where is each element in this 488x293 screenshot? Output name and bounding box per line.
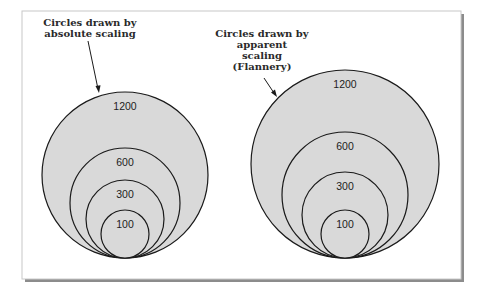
- left-caption: Circles drawn by absolute scaling: [30, 17, 150, 39]
- apparent-scaling-circles: 1200600300100: [251, 70, 439, 258]
- circle-label-600: 600: [116, 156, 134, 168]
- circle-label-100: 100: [116, 218, 134, 230]
- left-caption-line: absolute scaling: [30, 28, 150, 39]
- right-caption-line: apparent: [202, 39, 322, 50]
- circle-label-1200: 1200: [113, 100, 137, 112]
- diagram-canvas: 1200600300100 1200600300100 Circles draw…: [0, 0, 488, 293]
- circle-label-1200: 1200: [333, 78, 357, 90]
- circle-label-100: 100: [336, 218, 354, 230]
- right-caption-line: (Flannery): [202, 61, 322, 72]
- circle-label-600: 600: [336, 140, 354, 152]
- right-caption-line: scaling: [202, 50, 322, 61]
- absolute-scaling-circles: 1200600300100: [42, 92, 208, 258]
- circle-label-300: 300: [336, 180, 354, 192]
- right-caption-line: Circles drawn by: [202, 28, 322, 39]
- circle-label-300: 300: [116, 188, 134, 200]
- right-caption: Circles drawn by apparent scaling (Flann…: [202, 28, 322, 72]
- left-caption-line: Circles drawn by: [30, 17, 150, 28]
